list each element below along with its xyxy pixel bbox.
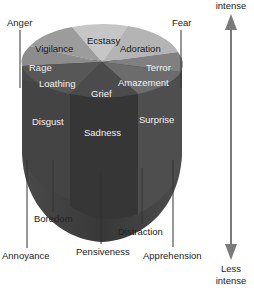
grief-label: Grief	[91, 88, 112, 99]
annoyance-label: Annoyance	[2, 250, 50, 261]
less-label: Less	[221, 263, 241, 274]
amazement-label: Amazement	[118, 77, 169, 88]
less-intense-label: intense	[216, 275, 247, 286]
terror-label: Terror	[146, 62, 171, 73]
surprise-label: Surprise	[139, 114, 174, 125]
sadness-label: Sadness	[84, 127, 121, 138]
apprehension-label: Apprehension	[143, 250, 202, 261]
anger-label: Anger	[7, 17, 32, 28]
loathing-label: Loathing	[39, 78, 75, 89]
disgust-label: Disgust	[32, 116, 64, 127]
fear-label: Fear	[172, 17, 192, 28]
boredom-label: Boredom	[34, 213, 73, 224]
pensiveness-label: Pensiveness	[76, 246, 130, 257]
vigilance-label: Vigilance	[35, 43, 73, 54]
surprise-facet	[138, 78, 182, 214]
ecstasy-label: Ecstasy	[87, 35, 120, 46]
rage-label: Rage	[29, 62, 52, 73]
intense-label: intense	[216, 0, 247, 11]
emotion-cone-diagram: intense Less intense Anger Fear Annoyanc…	[0, 0, 254, 288]
distraction-label: Distraction	[118, 226, 163, 237]
intensity-arrow	[225, 14, 237, 260]
sadness-facet	[70, 92, 138, 219]
adoration-label: Adoration	[120, 43, 161, 54]
